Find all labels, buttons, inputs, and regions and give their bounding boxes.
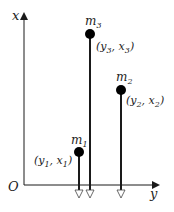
mass-1: m1 (y1, x1) (34, 133, 87, 198)
force-arrow-icon (86, 190, 94, 198)
diagram-canvas: x y O m1 (y1, x1) m3 (y3, x3) m2 (y2, x2… (0, 0, 174, 212)
y-axis-label: y (149, 186, 158, 201)
svg-text:(y3, x3): (y3, x3) (96, 40, 134, 55)
svg-text:(y2, x2): (y2, x2) (126, 94, 164, 109)
origin-label: O (8, 179, 19, 194)
x-axis-label: x (12, 8, 20, 23)
svg-text:m1: m1 (71, 133, 87, 149)
svg-text:(y1, x1): (y1, x1) (34, 154, 72, 169)
mass-2: m2 (y2, x2) (116, 70, 164, 198)
force-arrow-icon (75, 190, 83, 198)
force-arrow-icon (117, 190, 125, 198)
svg-text:m2: m2 (116, 70, 132, 86)
svg-text:m3: m3 (85, 14, 101, 30)
